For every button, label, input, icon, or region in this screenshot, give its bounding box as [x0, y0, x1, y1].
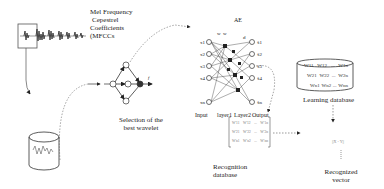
mfcc-label-line1: Mel Frequency [90, 8, 133, 16]
learning-database-label: Learning database [303, 96, 354, 104]
ae-weight-label-1: w [217, 30, 221, 38]
learning-cell: W11 [304, 61, 314, 71]
ae-output-x3: x̂3 [257, 63, 262, 71]
recognition-database-label: Recognition database [213, 163, 247, 179]
learning-cell: Wn1 [310, 81, 320, 91]
recognized-vector-label: Recognized vector [316, 168, 366, 184]
wavelet-label-line1: Selection of the [113, 116, 169, 124]
matrix-cell: W'2n [260, 128, 268, 137]
ae-output-x1: x̂1 [257, 39, 262, 47]
ae-layer-2: Layer2 [234, 111, 251, 119]
learning-cell: W2n [338, 71, 348, 81]
signal-database-icon [29, 132, 59, 170]
matrix-cell: W'nn [260, 137, 268, 146]
mfcc-label-line4: (MFCCs [90, 32, 133, 40]
diagram-canvas [0, 0, 384, 189]
ae-layer-1: layer1 [217, 111, 232, 119]
ae-input-x3: x3 [200, 63, 205, 71]
learning-cell: W22 [319, 71, 329, 81]
learning-cell: ... [332, 71, 336, 81]
ae-weight-label-2: w [223, 30, 227, 38]
recognition-matrix-cells: W'11W'12...W'1n W'21W'22...W'2n W'n1W'n2… [232, 119, 268, 146]
ae-weight-label-3: d [243, 34, 246, 42]
learning-cell: W1n [338, 61, 348, 71]
wavelet-node-label: f [148, 74, 149, 82]
matrix-cell: W'11 [232, 119, 240, 128]
recognition-label-line1: Recognition [213, 163, 247, 171]
matrix-cell: ... [254, 119, 257, 128]
wavelet-tree [104, 62, 152, 104]
matrix-cell: W'22 [243, 128, 251, 137]
result-label-line1: Recognized [316, 168, 366, 176]
ae-layer-output: Output [252, 111, 269, 119]
learning-cell: Wn2 [321, 81, 331, 91]
wavelet-label-line2: best wavelet [113, 124, 169, 132]
learning-cell: W12 [317, 61, 327, 71]
distance-formula: ||X - Y|| [332, 138, 344, 146]
matrix-cell: W'1n [260, 119, 268, 128]
mfcc-label-line2: Cepestrel [90, 16, 133, 24]
matrix-cell: ... [254, 128, 257, 137]
ae-layer-input: Input [195, 111, 208, 119]
mfcc-label-line3: Coefficients [90, 24, 133, 32]
ae-input-x1: x1 [200, 39, 205, 47]
autoencoder-network [207, 40, 255, 105]
matrix-cell: W'n1 [232, 137, 240, 146]
matrix-cell: W'n2 [243, 137, 251, 146]
ae-output-x4: x̂4 [257, 75, 262, 83]
ae-input-x4: x4 [200, 75, 205, 83]
ae-input-xn: xn [200, 99, 205, 107]
ae-output-x2: x̂2 [257, 51, 262, 59]
learning-cell: ... [331, 61, 335, 71]
mfcc-label: Mel Frequency Cepestrel Coefficients (MF… [90, 8, 133, 40]
learning-database-cells: W11W12...W1n W21W22...W2n Wn1Wn2...Wnn [304, 61, 348, 91]
matrix-cell: W'12 [243, 119, 251, 128]
waveform-icon [18, 24, 86, 48]
learning-cell: W21 [307, 71, 317, 81]
matrix-cell: ... [254, 137, 257, 146]
learning-cell: ... [333, 81, 337, 91]
recognition-label-line2: database [213, 171, 247, 179]
learning-cell: Wnn [338, 81, 348, 91]
ae-title: AE [234, 16, 242, 24]
matrix-cell: W'21 [232, 128, 240, 137]
wavelet-selection-label: Selection of the best wavelet [113, 116, 169, 132]
ae-input-x2: x2 [200, 51, 205, 59]
ae-output-xn: x̂n [257, 99, 262, 107]
result-label-line2: vector [316, 176, 366, 184]
